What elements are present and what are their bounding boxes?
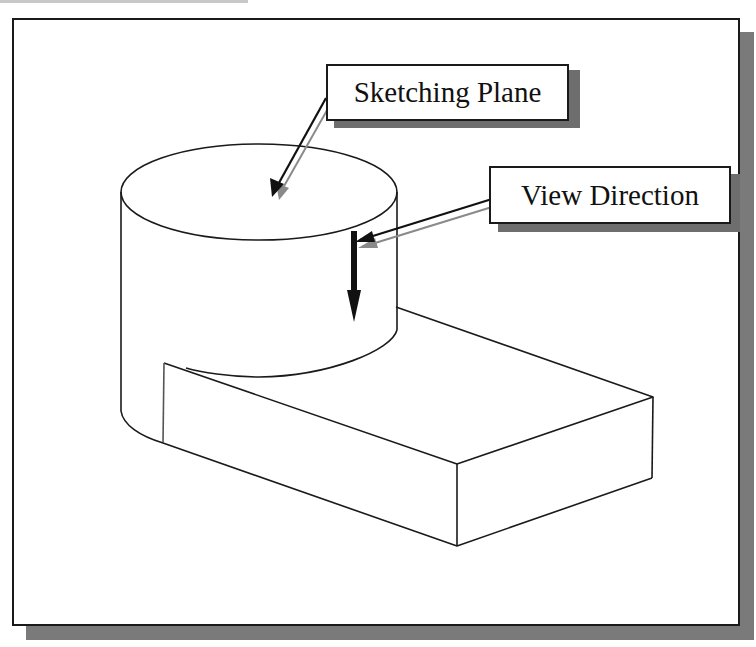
- base-block: [163, 307, 653, 546]
- view-direction-leader: [355, 199, 492, 248]
- sketching-plane-label: Sketching Plane: [326, 64, 569, 121]
- view-direction-label: View Direction: [489, 166, 731, 224]
- view-direction-arrow-icon: [347, 231, 361, 322]
- sketching-plane-top-face: [121, 144, 397, 240]
- sketching-plane-text: Sketching Plane: [354, 76, 542, 109]
- view-direction-text: View Direction: [521, 179, 699, 212]
